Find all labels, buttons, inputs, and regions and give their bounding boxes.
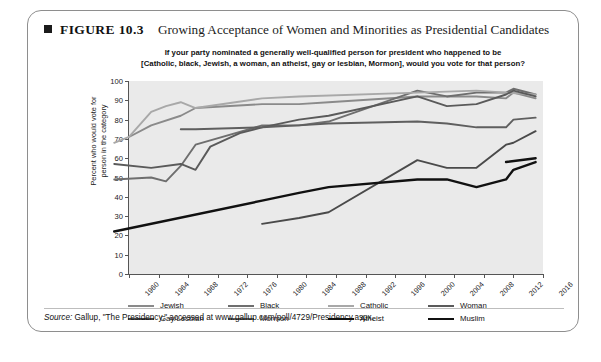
series-line-gay-lesbian (262, 131, 536, 224)
legend-item-jewish[interactable]: Jewish (128, 299, 228, 312)
y-tick-label: 90 (115, 96, 123, 105)
legend-label: Muslim (460, 314, 485, 323)
x-tick-mark (247, 274, 248, 278)
y-tick-label: 40 (115, 192, 123, 201)
x-tick-label: 1972 (232, 280, 250, 298)
legend-swatch (328, 305, 354, 307)
legend-item-catholic[interactable]: Catholic (328, 299, 428, 312)
figure-number: FIGURE 10.3 (60, 22, 144, 38)
survey-question: If your party nominated a generally well… (98, 47, 568, 70)
x-tick-mark (366, 274, 367, 278)
series-lines (129, 81, 543, 274)
series-line-muslim (506, 158, 536, 162)
x-tick-mark (188, 274, 189, 278)
x-tick-label: 2008 (498, 280, 516, 298)
y-tick-label: 0 (119, 270, 123, 279)
x-tick-mark (454, 274, 455, 278)
y-tick-label: 80 (115, 115, 123, 124)
source-note: Source: Gallup, "The Presidency," access… (44, 313, 374, 322)
legend-item-muslim[interactable]: Muslim (428, 312, 528, 325)
x-tick-label: 2000 (439, 280, 457, 298)
series-line-atheist (114, 162, 535, 231)
legend-swatch (228, 305, 254, 307)
y-tick-label: 100 (110, 77, 123, 86)
plot-area: 0102030405060708090100 19601964196819721… (128, 81, 543, 275)
x-tick-mark (218, 274, 219, 278)
square-bullet-icon (44, 25, 52, 33)
x-tick-mark (543, 274, 544, 278)
x-tick-mark (277, 274, 278, 278)
legend-swatch (428, 305, 454, 307)
x-tick-label: 1976 (261, 280, 279, 298)
y-axis-label: Percent who would vote for person in the… (89, 86, 109, 196)
x-tick-mark (484, 274, 485, 278)
figure-title: Growing Acceptance of Women and Minoriti… (158, 22, 549, 38)
survey-question-line2: [Catholic, black, Jewish, a woman, an at… (98, 58, 568, 69)
series-line-mormon (181, 118, 536, 130)
y-tick-label: 30 (115, 212, 123, 221)
x-tick-label: 1992 (379, 280, 397, 298)
source-label: Source: (44, 313, 72, 322)
y-tick-label: 10 (115, 250, 123, 259)
y-tick-label: 50 (115, 173, 123, 182)
x-tick-label: 1980 (291, 280, 309, 298)
x-tick-mark (425, 274, 426, 278)
x-tick-label: 1968 (202, 280, 220, 298)
x-tick-label: 2012 (527, 280, 545, 298)
legend-swatch (128, 305, 154, 307)
y-tick-label: 60 (115, 154, 123, 163)
legend-item-woman[interactable]: Woman (428, 299, 528, 312)
legend-swatch (428, 318, 454, 320)
x-tick-label: 2004 (468, 280, 486, 298)
figure-header: FIGURE 10.3 Growing Acceptance of Women … (44, 22, 549, 38)
chart-area: Percent who would vote for person in the… (44, 73, 564, 283)
x-tick-label: 1964 (172, 280, 190, 298)
x-tick-label: 1988 (350, 280, 368, 298)
survey-question-line1: If your party nominated a generally well… (98, 47, 568, 58)
source-divider (44, 308, 564, 309)
x-tick-label: 2016 (557, 280, 575, 298)
figure-card: FIGURE 10.3 Growing Acceptance of Women … (27, 10, 579, 332)
plot-wrapper: 0102030405060708090100 19601964196819721… (128, 81, 543, 275)
x-tick-mark (159, 274, 160, 278)
x-tick-label: 1960 (143, 280, 161, 298)
source-citation: Gallup, "The Presidency," accessed at ww… (72, 313, 374, 322)
x-tick-label: 1984 (320, 280, 338, 298)
x-tick-mark (129, 274, 130, 278)
x-tick-label: 1996 (409, 280, 427, 298)
x-tick-mark (336, 274, 337, 278)
x-tick-mark (306, 274, 307, 278)
x-tick-mark (513, 274, 514, 278)
legend-item-black[interactable]: Black (228, 299, 328, 312)
x-tick-mark (395, 274, 396, 278)
